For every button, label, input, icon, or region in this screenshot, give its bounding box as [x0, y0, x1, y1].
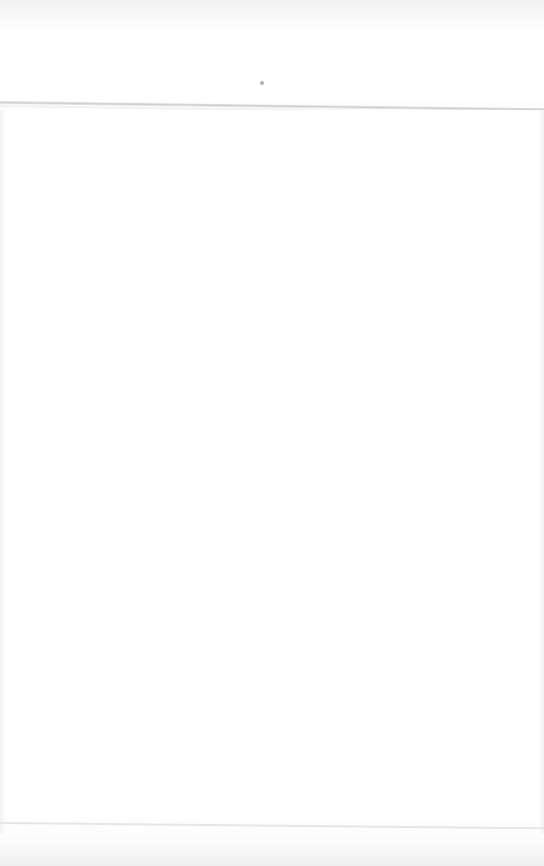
bottom-edge-strip	[0, 834, 544, 866]
top-edge-strip	[0, 0, 544, 28]
footer-divider	[0, 822, 544, 829]
left-edge-shading	[0, 110, 6, 860]
right-edge-shading	[538, 110, 544, 860]
header-area	[0, 28, 544, 102]
content-area	[0, 110, 544, 820]
blank-page	[0, 0, 544, 866]
loading-dot-icon	[260, 81, 264, 85]
